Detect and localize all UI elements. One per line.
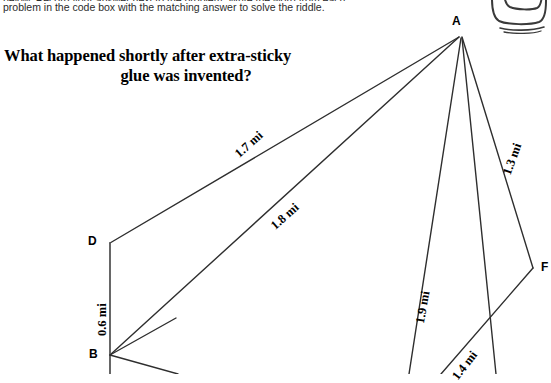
measure-label-1-7-mi: 1.7 mi bbox=[232, 128, 266, 161]
measure-label-0-6-mi: 0.6 mi bbox=[95, 303, 110, 336]
worksheet-instructions: below. Record your answer next to the pr… bbox=[3, 0, 403, 15]
segment-AG bbox=[462, 38, 496, 374]
segment-F-down bbox=[441, 268, 533, 374]
segment-B-spur-down bbox=[110, 355, 178, 374]
vertex-label-F: F bbox=[541, 261, 548, 273]
riddle-line-1: What happened shortly after extra-sticky bbox=[4, 46, 344, 66]
measure-label-1-8-mi: 1.8 mi bbox=[268, 200, 302, 233]
segment-B-spur-up bbox=[110, 318, 176, 355]
measure-label-1-9-mi: 1.9 mi bbox=[413, 290, 433, 325]
measure-label-1-4-mi: 1.4 mi bbox=[449, 348, 481, 383]
vertex-label-D: D bbox=[88, 235, 97, 247]
measure-label-1-3-mi: 1.3 mi bbox=[500, 141, 525, 177]
hand-drawn-box-sketch-icon bbox=[488, 0, 551, 34]
instruction-line-2: problem in the code box with the matchin… bbox=[3, 1, 403, 15]
vertex-label-A: A bbox=[452, 15, 461, 27]
vertex-label-B: B bbox=[89, 348, 98, 360]
segment-AE bbox=[409, 38, 461, 374]
riddle-line-2: glue was invented? bbox=[4, 66, 344, 86]
riddle-question-heading: What happened shortly after extra-sticky… bbox=[4, 46, 344, 86]
